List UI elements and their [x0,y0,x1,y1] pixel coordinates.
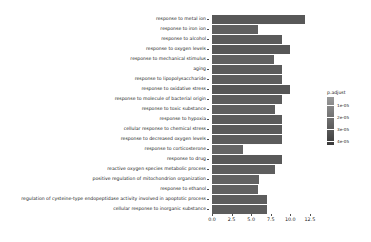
x-axis-tick-label: 12.5 [305,217,316,222]
x-axis-tick-mark [212,214,213,216]
y-axis-tick-mark [207,39,209,40]
x-axis: 0.02.55.07.510.012.5 [212,214,313,228]
bar-row [212,14,313,24]
y-axis-tick-mark [207,29,209,30]
y-axis-tick-label: regulation of cysteine-type endopeptidas… [0,194,209,204]
legend-tick-mark [327,105,334,106]
y-axis-tick-mark [207,129,209,130]
x-axis-tick-mark [251,214,252,216]
y-axis-tick-label: response to oxygen levels [0,44,209,54]
bar-row [212,154,313,164]
legend-tick-mark [327,117,334,118]
bar-row [212,174,313,184]
bar-row [212,54,313,64]
bar [212,135,282,144]
bar-row [212,124,313,134]
y-axis-labels: response to metal ionresponse to iron io… [0,14,209,214]
y-axis-tick-label: response to hypoxia [0,114,209,124]
bar [212,85,290,94]
bar-row [212,134,313,144]
bar-row [212,114,313,124]
y-axis-tick-label: response to iron ion [0,24,209,34]
bar [212,55,274,64]
bar [212,175,259,184]
y-axis-tick-mark [207,179,209,180]
y-axis-tick-mark [207,109,209,110]
y-axis-tick-mark [207,199,209,200]
y-axis-tick-mark [207,79,209,80]
y-axis-tick-label: response to oxidative stress [0,84,209,94]
x-axis-tick-mark [232,214,233,216]
y-axis-tick-mark [207,89,209,90]
y-axis-tick-label: response to decreased oxygen levels [0,134,209,144]
x-axis-tick-label: 10.0 [285,217,296,222]
bar [212,25,258,34]
y-axis-tick-mark [207,169,209,170]
x-axis-tick-label: 7.5 [267,217,275,222]
bar [212,205,267,214]
bar-row [212,144,313,154]
y-axis-tick-mark [207,119,209,120]
y-axis-tick-label: response to molecule of bacterial origin [0,94,209,104]
bar [212,145,243,154]
bar [212,45,290,54]
bar [212,155,282,164]
y-axis-tick-mark [207,59,209,60]
y-axis-tick-mark [207,189,209,190]
bar-row [212,44,313,54]
y-axis-tick-label: response to corticosterone [0,144,209,154]
y-axis-tick-label: positive regulation of mitochondrion org… [0,174,209,184]
bar [212,185,258,194]
legend-gradient [327,97,334,145]
y-axis-tick-mark [207,69,209,70]
bar [212,105,275,114]
y-axis-tick-label: response to toxic substance [0,104,209,114]
y-axis-tick-mark [207,159,209,160]
legend-title: p.adjust [327,90,371,95]
bar-row [212,184,313,194]
bar-row [212,94,313,104]
bar-row [212,194,313,204]
bar [212,75,282,84]
bar-row [212,74,313,84]
x-axis-tick-label: 0.0 [208,217,216,222]
y-axis-tick-label: response to drug [0,154,209,164]
y-axis-tick-mark [207,19,209,20]
y-axis-tick-label: response to mechanical stimulus [0,54,209,64]
y-axis-tick-label: response to lipopolysaccharide [0,74,209,84]
legend-tick-mark [327,129,334,130]
bar-row [212,204,313,214]
x-axis-tick-mark [290,214,291,216]
x-axis-tick-label: 2.5 [228,217,236,222]
bar [212,115,282,124]
bar [212,125,282,134]
bar [212,35,282,44]
bar-row [212,34,313,44]
legend-tick-label: 3e-05 [337,127,349,132]
go-enrichment-barplot: response to metal ionresponse to iron io… [0,0,371,242]
bar [212,195,267,204]
y-axis-tick-label: cellular response to chemical stress [0,124,209,134]
bars-layer [212,14,313,214]
y-axis-tick-mark [207,209,209,210]
y-axis-tick-label: response to ethanol [0,184,209,194]
y-axis-tick-mark [207,149,209,150]
y-axis-tick-label: cellular response to inorganic substance [0,204,209,214]
bar-row [212,164,313,174]
bar [212,15,305,24]
y-axis-tick-mark [207,99,209,100]
bar-row [212,24,313,34]
y-axis-tick-label: aging [0,64,209,74]
legend-tick-label: 2e-05 [337,115,349,120]
bar-row [212,104,313,114]
y-axis-tick-label: response to metal ion [0,14,209,24]
x-axis-tick-mark [310,214,311,216]
legend-tick-label: 4e-05 [337,139,349,144]
bar [212,65,282,74]
bar [212,95,282,104]
x-axis-tick-label: 5.0 [247,217,255,222]
y-axis-tick-mark [207,139,209,140]
bar-row [212,84,313,94]
bar-row [212,64,313,74]
legend-colorbar: 1e-052e-053e-054e-05 [326,97,370,145]
